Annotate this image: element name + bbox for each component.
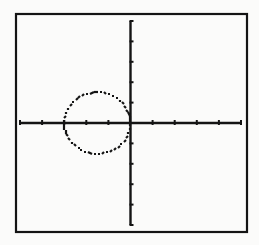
circle-segment (82, 94, 84, 96)
circle-segment (74, 144, 76, 146)
circle-segment (70, 104, 72, 106)
calculator-graph-screen (0, 0, 259, 245)
circle-segment (78, 96, 80, 98)
circle-segment (102, 152, 104, 154)
circle-segment (126, 136, 128, 138)
circle-segment (122, 102, 124, 104)
circle-segment (124, 106, 126, 108)
circle-segment (68, 138, 70, 140)
circle-segment (118, 146, 120, 148)
circle-segment (110, 150, 112, 152)
circle-segment (64, 116, 66, 118)
circle-segment (66, 134, 68, 136)
circle-segment (114, 148, 116, 150)
circle-segment (126, 110, 128, 112)
circle-segment (124, 140, 126, 142)
circle-segment (104, 92, 106, 94)
circle-segment (76, 98, 78, 100)
